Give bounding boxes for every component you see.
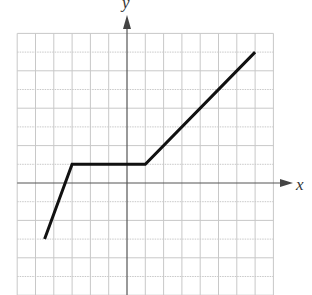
x-axis-arrow-icon — [280, 179, 293, 187]
y-axis-label: y — [122, 0, 130, 11]
coordinate-plane — [0, 0, 312, 295]
x-axis-label: x — [296, 176, 304, 193]
y-axis-arrow-icon — [123, 15, 131, 29]
